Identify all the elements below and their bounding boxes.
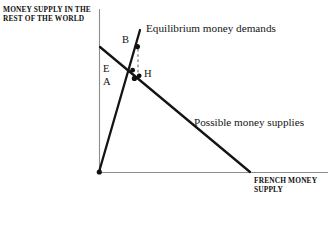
point-marker-h — [137, 73, 142, 78]
possible-money-supplies-line — [100, 47, 250, 172]
point-label-e: E — [103, 63, 109, 75]
point-marker-a — [132, 76, 137, 81]
equilibrium-money-demands-caption: Equilibrium money demands — [146, 22, 276, 35]
point-label-h: H — [144, 68, 152, 80]
possible-money-supplies-caption: Possible money supplies — [194, 116, 304, 129]
point-label-a: A — [103, 76, 111, 88]
origin-dot — [97, 169, 102, 174]
point-label-b: B — [122, 34, 129, 46]
economics-diagram-figure: MONEY SUPPLY IN THE REST OF THE WORLD FR… — [0, 0, 328, 226]
y-axis-caption: MONEY SUPPLY IN THE REST OF THE WORLD — [3, 6, 91, 23]
point-marker-e — [130, 68, 135, 73]
x-axis-caption: FRENCH MONEY SUPPLY — [254, 177, 317, 194]
point-marker-b — [135, 44, 140, 49]
